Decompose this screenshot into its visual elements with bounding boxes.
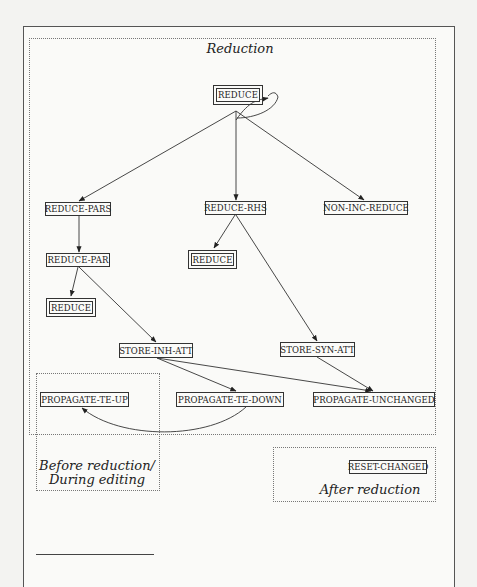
node-propagate-unchanged: PROPAGATE-UNCHANGED xyxy=(313,392,435,407)
before-reduction-label-line1: Before reduction/ xyxy=(36,458,158,473)
node-reduce-top: REDUCE xyxy=(216,88,260,102)
node-non-inc-reduce: NON-INC-REDUCE xyxy=(324,201,408,215)
node-reset-changed: RESET-CHANGED xyxy=(349,460,427,474)
node-store-syn-att: STORE-SYN-ATT xyxy=(280,342,355,357)
node-store-inh-att: STORE-INH-ATT xyxy=(119,343,193,358)
node-propagate-te-down: PROPAGATE-TE-DOWN xyxy=(176,392,284,407)
footnote-rule xyxy=(36,554,154,555)
before-reduction-label-line2: During editing xyxy=(36,472,158,487)
node-reduce-left: REDUCE xyxy=(49,301,93,314)
node-propagate-te-up: PROPAGATE-TE-UP xyxy=(40,392,129,407)
after-reduction-label: After reduction xyxy=(310,482,430,497)
node-reduce-mid: REDUCE xyxy=(191,253,234,266)
reduction-region-label: Reduction xyxy=(190,41,290,56)
node-reduce-pars: REDUCE-PARS xyxy=(45,202,111,216)
node-reduce-rhs: REDUCE-RHS xyxy=(205,201,266,215)
node-reduce-par: REDUCE-PAR xyxy=(46,253,110,267)
